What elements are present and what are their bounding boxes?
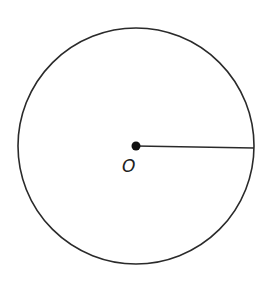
radius-segment — [136, 146, 254, 148]
center-label: O — [122, 156, 135, 176]
circle-diagram: O — [0, 0, 271, 285]
center-point — [132, 142, 141, 151]
